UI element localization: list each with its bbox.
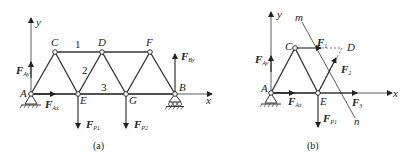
force-ax-label-b: FAx: [287, 95, 302, 108]
node-g: [124, 92, 129, 97]
node-label-e: E: [79, 94, 87, 106]
node-label-a-b: A: [260, 82, 268, 94]
node-label-c: C: [51, 36, 59, 48]
node-d: [100, 50, 105, 55]
truss-diagram: y x 1 2 3: [0, 0, 410, 160]
node-b: [173, 92, 178, 97]
node-label-f: F: [145, 36, 153, 48]
node-label-d-b: D: [346, 41, 355, 53]
member-label-1: 1: [75, 38, 81, 50]
node-label-c-b: C: [285, 40, 293, 52]
node-label-b: B: [179, 81, 186, 93]
member-label-2: 2: [82, 64, 88, 76]
node-a: [29, 92, 34, 97]
force-f2-label: F2: [340, 63, 351, 76]
figure-b: y x m n A C E D FAy FAx FP1: [254, 8, 398, 152]
force-p1-label: FP1: [85, 118, 100, 131]
caption-b: (b): [307, 140, 319, 152]
node-label-a: A: [19, 87, 27, 99]
section-label-n: n: [354, 115, 360, 127]
caption-a: (a): [93, 140, 104, 152]
x-axis-label: x: [205, 94, 211, 106]
node-c-b: [293, 46, 298, 51]
y-axis-label: y: [35, 16, 41, 28]
member-label-3: 3: [101, 81, 107, 93]
x-axis-label-b: x: [392, 87, 398, 99]
force-by-label: FBy: [180, 50, 195, 63]
force-f2-arrow: [319, 58, 336, 91]
section-label-m: m: [295, 11, 303, 23]
force-p2-label: FP2: [133, 118, 148, 131]
force-ay-label: FAy: [15, 64, 30, 77]
figure-a: y x 1 2 3: [15, 16, 212, 152]
node-label-g: G: [129, 94, 137, 106]
node-label-e-b: E: [319, 95, 327, 107]
node-label-d: D: [97, 36, 106, 48]
node-c: [53, 50, 58, 55]
force-f1-label: F1: [316, 36, 327, 49]
node-f: [148, 50, 153, 55]
force-ax-label: FAx: [44, 98, 59, 111]
node-a-b: [269, 91, 274, 96]
force-p1-label-b: FP1: [322, 112, 337, 125]
force-f3-label: F3: [351, 96, 362, 109]
force-ay-label-b: FAy: [254, 53, 269, 66]
y-axis-label-b: y: [276, 8, 282, 20]
